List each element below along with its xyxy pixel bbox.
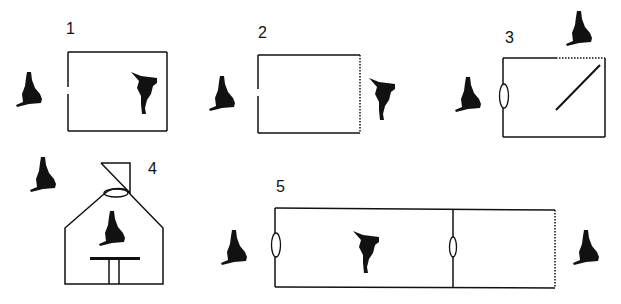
observer-icon xyxy=(455,77,481,112)
panel-5-label: 5 xyxy=(276,178,285,196)
panel-1-label: 1 xyxy=(66,20,75,38)
observer-icon xyxy=(573,230,599,265)
observer-icon xyxy=(221,230,247,265)
figure-icon xyxy=(99,211,125,246)
figure-icon xyxy=(131,72,157,114)
figure-icon xyxy=(353,231,379,273)
panel-2 xyxy=(209,55,395,133)
lens-icon xyxy=(500,84,509,108)
figure-icon xyxy=(369,78,395,120)
observer-icon xyxy=(16,72,42,107)
lens-icon xyxy=(272,233,281,257)
panel-3-label: 3 xyxy=(505,29,514,47)
panel-3 xyxy=(455,11,605,137)
panel-5 xyxy=(221,208,599,288)
panel-4 xyxy=(30,157,163,284)
observer-icon xyxy=(209,76,235,111)
mirror-icon xyxy=(556,65,600,110)
lens-icon xyxy=(104,189,128,197)
table-top xyxy=(90,257,140,260)
observer-icon xyxy=(30,157,56,192)
panel-4-label: 4 xyxy=(148,160,157,178)
panel-1 xyxy=(16,52,167,131)
diagram-svg xyxy=(0,0,621,304)
panel-2-label: 2 xyxy=(258,24,267,42)
lens-icon xyxy=(450,237,457,257)
observer-icon xyxy=(566,11,592,46)
